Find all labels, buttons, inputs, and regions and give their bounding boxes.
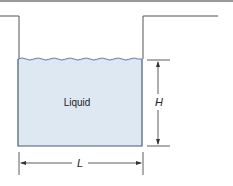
- right-wall: [143, 16, 218, 59]
- tank-diagram: Liquid H L: [0, 0, 233, 186]
- height-label: H: [155, 96, 163, 108]
- height-arrow-down-icon: [156, 139, 160, 145]
- liquid-label: Liquid: [64, 97, 91, 108]
- height-arrow-up-icon: [156, 61, 160, 67]
- length-label: L: [77, 157, 83, 169]
- left-wall: [0, 16, 19, 59]
- length-arrow-right-icon: [136, 161, 142, 165]
- length-arrow-left-icon: [20, 161, 26, 165]
